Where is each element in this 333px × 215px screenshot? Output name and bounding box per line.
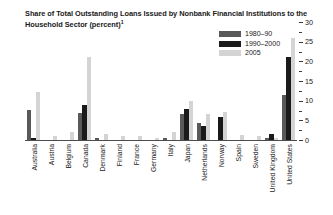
x-axis-label-cell: Belgium [59, 144, 76, 210]
bar-group [212, 22, 229, 140]
y-axis-tick-label: 25 [305, 37, 313, 46]
bar [206, 114, 211, 140]
x-axis-label-cell: Sweden [246, 144, 263, 210]
y-axis-tick-label: 5 [305, 116, 309, 125]
x-axis-tick-label: Finland [115, 144, 122, 166]
y-axis-major-tick: 15 [299, 81, 303, 82]
x-axis-tick-label: Austria [47, 144, 54, 165]
plot-inner [25, 22, 297, 141]
tick-mark [299, 32, 302, 33]
bar [172, 132, 177, 140]
x-axis-tick-label: Norway [217, 144, 224, 167]
tick-mark [299, 140, 303, 141]
x-axis-tick-label: Sweden [251, 144, 258, 169]
bar [70, 132, 75, 140]
x-axis-tick-label: Belgium [64, 144, 71, 169]
x-axis-label-cell: Spain [229, 144, 246, 210]
bar-group [93, 22, 110, 140]
bar-group [280, 22, 297, 140]
x-axis-tick-label: Spain [234, 144, 241, 161]
bar-group [144, 22, 161, 140]
chart-title-line1: Share of Total Outstanding Loans Issued … [25, 9, 285, 18]
tick-mark [299, 91, 302, 92]
x-axis-label-cell: Australia [25, 144, 42, 210]
bar [189, 101, 194, 140]
x-axis-tick-label: United Kingdom [268, 144, 275, 192]
bar-group [161, 22, 178, 140]
x-axis-label-cell: United States [280, 144, 297, 210]
bar-group [178, 22, 195, 140]
x-axis-label-cell: Finland [110, 144, 127, 210]
y-axis-tick-label: 0 [305, 136, 309, 145]
x-axis-tick-label: United States [285, 144, 292, 185]
y-axis-major-tick: 20 [299, 61, 303, 62]
y-axis-tick-label: 20 [305, 57, 313, 66]
chart-figure: Share of Total Outstanding Loans Issued … [0, 0, 333, 215]
y-axis-minor-tick [299, 91, 302, 92]
bar-group [110, 22, 127, 140]
x-axis-tick-label: France [132, 144, 139, 165]
x-axis-tick-label: Denmark [98, 144, 105, 172]
y-axis: 051015202530 [299, 22, 333, 142]
y-axis-minor-tick [299, 71, 302, 72]
bar-group [263, 22, 280, 140]
x-axis-tick-label: Italy [166, 144, 173, 156]
x-axis-labels: AustraliaAustriaBelgiumCanadaDenmarkFinl… [25, 144, 297, 210]
x-axis-tick-label: Canada [81, 144, 88, 168]
y-axis-major-tick: 25 [299, 42, 303, 43]
x-axis-label-cell: Japan [178, 144, 195, 210]
bar-group [229, 22, 246, 140]
y-axis-tick-label: 30 [305, 18, 313, 27]
tick-mark [299, 42, 303, 43]
bar-group [76, 22, 93, 140]
tick-mark [299, 61, 303, 62]
x-axis-label-cell: Denmark [93, 144, 110, 210]
bar [291, 38, 296, 140]
y-axis-major-tick: 5 [299, 120, 303, 121]
y-axis-minor-tick [299, 32, 302, 33]
bar [87, 57, 92, 140]
x-axis-label-cell: France [127, 144, 144, 210]
x-axis-label-cell: Canada [76, 144, 93, 210]
tick-mark [299, 120, 303, 121]
bar-group [25, 22, 42, 140]
x-axis-label-cell: Italy [161, 144, 178, 210]
bar-group [59, 22, 76, 140]
x-axis-label-cell: Germany [144, 144, 161, 210]
bar-groups [25, 22, 297, 140]
y-axis-minor-tick [299, 111, 302, 112]
bar-group [246, 22, 263, 140]
bar [223, 112, 228, 140]
bar-group [195, 22, 212, 140]
bar-group [127, 22, 144, 140]
tick-mark [299, 111, 302, 112]
x-axis-label-cell: Netherlands [195, 144, 212, 210]
x-axis-tick-label: Netherlands [200, 144, 207, 181]
tick-mark [299, 22, 303, 23]
y-axis-minor-tick [299, 130, 302, 131]
x-axis-label-cell: United Kingdom [263, 144, 280, 210]
bar-group [42, 22, 59, 140]
tick-mark [299, 52, 302, 53]
y-axis-major-tick: 10 [299, 101, 303, 102]
tick-mark [299, 81, 303, 82]
y-axis-minor-tick [299, 52, 302, 53]
tick-mark [299, 71, 302, 72]
y-axis-tick-label: 10 [305, 96, 313, 105]
y-axis-major-tick: 0 [299, 140, 303, 141]
y-axis-tick-label: 15 [305, 77, 313, 86]
x-axis-tick-label: Germany [149, 144, 156, 172]
x-axis-label-cell: Norway [212, 144, 229, 210]
tick-mark [299, 130, 302, 131]
x-axis-tick-label: Australia [30, 144, 37, 170]
x-axis-label-cell: Austria [42, 144, 59, 210]
y-axis-major-tick: 30 [299, 22, 303, 23]
bar [36, 92, 41, 140]
bar [27, 110, 32, 140]
x-axis-baseline [25, 140, 297, 141]
x-axis-tick-label: Japan [183, 144, 190, 163]
plot-area [25, 22, 297, 141]
tick-mark [299, 101, 303, 102]
